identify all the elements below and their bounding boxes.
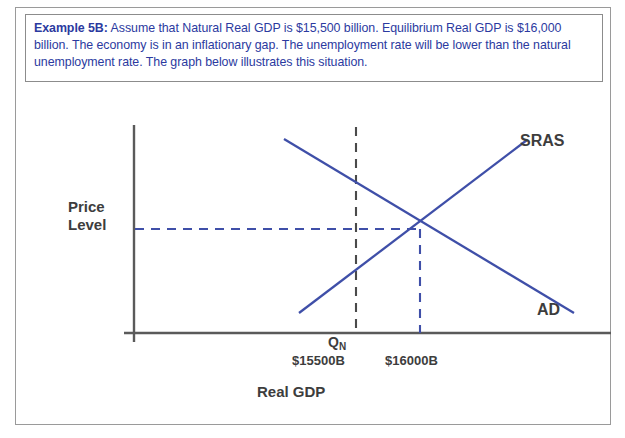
equilibrium-real-gdp-value-label: $16000B [385, 353, 438, 368]
natural-real-gdp-tick-label: QN [328, 334, 346, 350]
qn-base: Q [328, 334, 339, 350]
y-axis-title-line1: Price [68, 198, 106, 216]
natural-real-gdp-value-label: $15500B [292, 353, 345, 368]
screenshot-canvas: Example 5B: Assume that Natural Real GDP… [0, 0, 625, 438]
ad-sras-graph: Price Level SRAS AD Real GDP QN $15500B … [16, 8, 612, 426]
qn-subscript: N [339, 341, 346, 352]
y-axis-title: Price Level [68, 198, 106, 234]
x-axis-title: Real GDP [257, 383, 325, 400]
ad-curve-label: AD [537, 301, 560, 319]
diagram-card: Example 5B: Assume that Natural Real GDP… [15, 7, 611, 425]
sras-curve-label: SRAS [520, 132, 564, 150]
y-axis-title-line2: Level [68, 216, 106, 234]
ad-curve [284, 139, 574, 313]
sras-curve [299, 140, 527, 313]
